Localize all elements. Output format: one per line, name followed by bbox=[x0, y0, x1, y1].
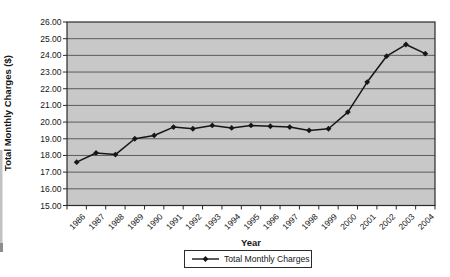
x-axis-title: Year bbox=[241, 237, 261, 248]
y-tick-label: 25.00 bbox=[40, 34, 62, 44]
x-tick-label: 1992 bbox=[183, 211, 203, 231]
y-tick-label: 22.00 bbox=[40, 84, 62, 94]
y-tick-label: 15.00 bbox=[40, 201, 62, 211]
x-tick-label: 2001 bbox=[358, 211, 378, 231]
x-tick-label: 1988 bbox=[106, 211, 126, 231]
x-tick-label: 1998 bbox=[299, 211, 319, 231]
x-tick-label: 1999 bbox=[319, 211, 339, 231]
y-tick-label: 20.00 bbox=[40, 117, 62, 127]
x-tick-label: 2004 bbox=[416, 211, 436, 231]
x-tick-label: 1989 bbox=[125, 211, 145, 231]
x-axis-ticks bbox=[67, 206, 435, 210]
x-tick-label: 1996 bbox=[261, 211, 281, 231]
x-tick-label: 1994 bbox=[222, 211, 242, 231]
chart-page: 26.0025.0024.0023.0022.0021.0020.0019.00… bbox=[0, 0, 450, 277]
y-tick-label: 21.00 bbox=[40, 100, 62, 110]
y-tick-label: 16.00 bbox=[40, 184, 62, 194]
y-axis-labels: 26.0025.0024.0023.0022.0021.0020.0019.00… bbox=[40, 17, 62, 211]
x-tick-label: 2002 bbox=[377, 211, 397, 231]
y-tick-label: 19.00 bbox=[40, 134, 62, 144]
x-tick-label: 1997 bbox=[280, 211, 300, 231]
legend-label: Total Monthly Charges bbox=[224, 254, 310, 264]
legend: Total Monthly Charges bbox=[185, 251, 312, 268]
line-chart: 26.0025.0024.0023.0022.0021.0020.0019.00… bbox=[0, 0, 450, 277]
x-tick-label: 1990 bbox=[144, 211, 164, 231]
x-tick-label: 2000 bbox=[338, 211, 358, 231]
scan-artifact bbox=[0, 243, 3, 252]
x-tick-label: 2003 bbox=[396, 211, 416, 231]
y-axis-title: Total Monthly Charges ($) bbox=[2, 55, 13, 171]
x-axis-labels: 1986198719881989199019911992199319941995… bbox=[67, 211, 436, 231]
x-tick-label: 1991 bbox=[164, 211, 184, 231]
x-tick-label: 1995 bbox=[241, 211, 261, 231]
y-tick-label: 18.00 bbox=[40, 150, 62, 160]
x-tick-label: 1986 bbox=[67, 211, 87, 231]
plot-area bbox=[67, 22, 435, 206]
y-tick-label: 17.00 bbox=[40, 167, 62, 177]
y-tick-label: 23.00 bbox=[40, 67, 62, 77]
x-tick-label: 1987 bbox=[86, 211, 106, 231]
y-tick-label: 26.00 bbox=[40, 17, 62, 27]
x-tick-label: 1993 bbox=[203, 211, 223, 231]
y-tick-label: 24.00 bbox=[40, 50, 62, 60]
